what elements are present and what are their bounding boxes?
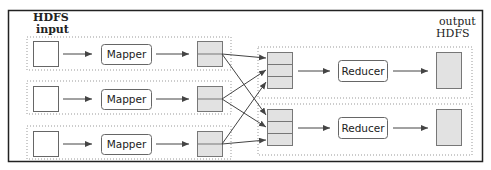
mapper-row-1: Mapper xyxy=(27,37,231,70)
reducer-input-segments xyxy=(268,110,293,146)
shuffle-arrow-m3-r2 xyxy=(222,140,266,144)
input-split-box xyxy=(34,87,59,112)
mapper-label: Mapper xyxy=(107,138,147,150)
mapper-label: Mapper xyxy=(107,93,147,105)
reducer-row-2: Reducer xyxy=(258,104,472,155)
output-file-box xyxy=(437,53,462,89)
mapper-row-3: Mapper xyxy=(27,126,231,159)
mapper-row-2: Mapper xyxy=(27,81,231,114)
shuffle-arrow-m3-r1 xyxy=(222,82,266,144)
shuffle-arrow-m2-r1 xyxy=(222,70,266,99)
shuffle-edges xyxy=(222,54,266,144)
reducer-label: Reducer xyxy=(341,122,385,134)
shuffle-arrow-m1-r1 xyxy=(222,54,266,58)
hdfs-output-label-line2: HDFS xyxy=(436,27,470,40)
mapper-label: Mapper xyxy=(107,48,147,60)
input-split-box xyxy=(34,42,59,67)
reducer-row-1: Reducer xyxy=(258,47,472,98)
hdfs-output-label: output HDFS xyxy=(436,15,476,40)
mapreduce-diagram: HDFS input output HDFS Mapper Mapper xyxy=(0,0,491,170)
reducer-input-segments xyxy=(268,53,293,89)
reducer-label: Reducer xyxy=(341,65,385,77)
hdfs-input-label-line2: input xyxy=(36,23,70,36)
hdfs-input-label: HDFS input xyxy=(33,11,70,36)
input-split-box xyxy=(34,132,59,157)
output-file-box xyxy=(437,110,462,146)
